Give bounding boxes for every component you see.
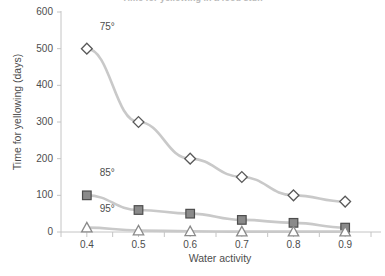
data-point-diamond xyxy=(81,43,92,54)
data-point-diamond xyxy=(340,196,351,207)
data-point-diamond xyxy=(133,117,144,128)
data-point-diamond xyxy=(288,190,299,201)
series-line xyxy=(87,49,345,202)
chart-container: Time for yellowing in a food stuff Time … xyxy=(0,0,385,276)
data-point-square xyxy=(83,191,92,200)
data-point-diamond xyxy=(236,172,247,183)
series-75 xyxy=(81,43,350,207)
series-line xyxy=(87,228,345,232)
data-point-square xyxy=(238,216,247,225)
data-point-square xyxy=(134,206,143,215)
plot-area xyxy=(0,0,385,276)
data-point-square xyxy=(186,209,195,218)
series-line xyxy=(87,195,345,227)
data-point-diamond xyxy=(185,153,196,164)
